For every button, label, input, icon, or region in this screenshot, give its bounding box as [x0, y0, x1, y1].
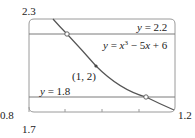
intersection-marker-upper [65, 32, 69, 36]
label-y-max: 2.3 [22, 6, 36, 17]
label-y-min: 1.7 [22, 124, 36, 135]
label-x-min: 0.8 [0, 110, 14, 121]
label-curve-equation: y = x3 − 5x + 6 [103, 40, 167, 51]
line-lower-value: = 1.8 [45, 85, 70, 97]
label-line-y-1-8: y = 1.8 [40, 86, 70, 97]
intersection-marker-lower [144, 95, 148, 99]
label-x-max: 1.2 [178, 110, 192, 121]
eq-part: = [108, 39, 120, 51]
eq-part: + 6 [150, 39, 167, 51]
line-upper-value: = 2.2 [142, 21, 167, 33]
eq-part: − 5 [128, 39, 145, 51]
label-point-1-2: (1, 2) [72, 71, 96, 82]
point-1-2-dot [94, 64, 97, 67]
label-line-y-2-2: y = 2.2 [137, 22, 167, 33]
